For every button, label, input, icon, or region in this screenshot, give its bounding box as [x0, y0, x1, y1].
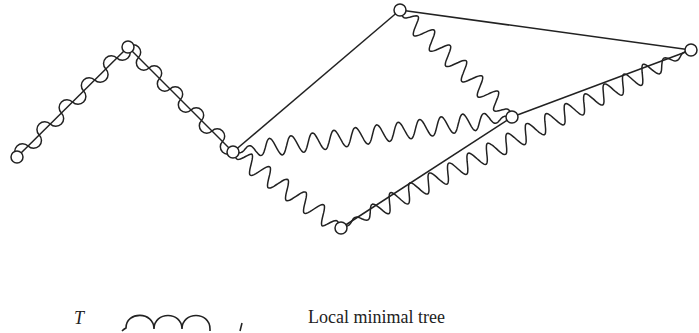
node-C [227, 146, 239, 158]
wavy-edge-C-F [233, 114, 512, 156]
node-G [335, 222, 347, 234]
legend-wave-icon [116, 309, 296, 333]
legend: T Local minimal tree [60, 305, 480, 331]
edge-F-G [341, 117, 512, 228]
node-A [11, 151, 23, 163]
straight-edges [233, 10, 691, 228]
node-E [685, 44, 697, 56]
node-B [122, 41, 134, 53]
minimal-tree-edges [15, 45, 233, 157]
node-F [506, 111, 518, 123]
node-D [394, 4, 406, 16]
legend-label: Local minimal tree [308, 307, 445, 328]
wavy-edge-G-E [341, 50, 691, 228]
edge-D-E [400, 10, 691, 50]
tree-loops-A-B [15, 47, 131, 157]
wavy-edge-C-G [233, 152, 341, 228]
wavy-edge-D-F [400, 10, 512, 117]
tree-loops-B-C [128, 45, 233, 154]
edge-E-F [512, 50, 691, 117]
edge-C-D [233, 10, 400, 152]
nodes [11, 4, 697, 234]
legend-symbol-label: T [74, 308, 84, 329]
wavy-edges [233, 10, 691, 228]
